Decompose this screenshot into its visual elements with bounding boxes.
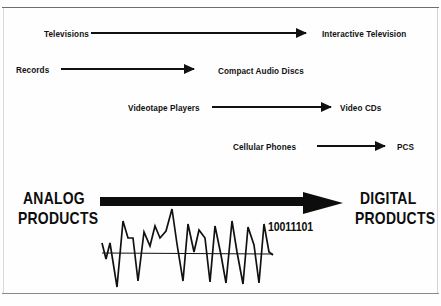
arrow-videotape-players-to-video-cds — [212, 102, 331, 112]
frame-top-rule — [2, 7, 439, 8]
arrow-head — [303, 192, 343, 214]
arrow-head — [321, 102, 332, 112]
arrow-shaft — [61, 68, 194, 70]
arrow-head — [184, 64, 195, 74]
label-analog-cellular-phones: Cellular Phones — [233, 142, 296, 152]
arrow-cellular-phones-to-pcs — [317, 141, 385, 151]
arrow-shaft — [212, 106, 331, 108]
label-digital-pcs: PCS — [397, 142, 414, 152]
arrow-head — [375, 141, 386, 151]
label-digital-compact-audio-discs: Compact Audio Discs — [218, 66, 304, 76]
frame-left-rule — [3, 8, 4, 293]
label-analog-products-line2: PRODUCTS — [18, 209, 98, 228]
label-analog-records: Records — [16, 65, 49, 75]
waveform-trace — [102, 209, 273, 287]
label-digital-video-cds: Video CDs — [340, 103, 381, 113]
arrow-televisions-to-interactive-television — [91, 28, 306, 38]
arrow-shaft — [91, 32, 306, 34]
label-analog-televisions: Televisions — [44, 29, 89, 39]
arrow-records-to-compact-audio-discs — [61, 64, 194, 74]
label-digital-products-line1: DIGITAL — [360, 189, 416, 208]
label-analog-videotape-players: Videotape Players — [128, 103, 200, 113]
label-digital-interactive-television: Interactive Television — [322, 29, 406, 39]
analog-waveform-graphic — [97, 202, 277, 290]
label-analog-products-line1: ANALOG — [23, 189, 85, 208]
frame-right-rule — [437, 8, 438, 293]
frame-bottom-rule — [2, 293, 439, 294]
label-digital-products-line2: PRODUCTS — [355, 209, 435, 228]
figure-frame: Televisions Interactive Television Recor… — [0, 0, 441, 306]
waveform-baseline — [102, 253, 273, 254]
arrow-head — [296, 28, 307, 38]
